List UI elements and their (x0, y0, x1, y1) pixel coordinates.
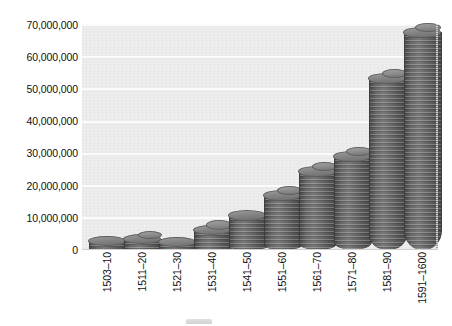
x-axis-tick-label: 1521–30 (172, 252, 183, 292)
bar-top-cap (158, 237, 196, 247)
y-axis-tick-label: 0 (0, 245, 78, 256)
plot-area (82, 24, 437, 250)
legend (186, 318, 296, 326)
bar[interactable] (404, 32, 440, 250)
x-axis-line (82, 249, 438, 250)
legend-swatch (186, 319, 212, 324)
x-axis-tick-label: 1571–80 (347, 252, 358, 292)
bar-chart: 70,000,000 60,000,000 50,000,000 40,000,… (0, 0, 452, 326)
x-axis-tick-label: 1581–90 (382, 252, 393, 292)
bar[interactable] (334, 156, 370, 250)
bar-body (299, 171, 337, 250)
bar[interactable] (369, 78, 405, 250)
y-axis-tick-label: 30,000,000 (0, 148, 78, 159)
bar-body (264, 195, 302, 250)
bar[interactable] (194, 230, 230, 250)
x-axis-tick-label: 1531–40 (207, 252, 218, 292)
x-axis-tick-label: 1561–70 (312, 252, 323, 292)
y-axis: 70,000,000 60,000,000 50,000,000 40,000,… (0, 0, 78, 260)
x-axis: 1503–10 1511–20 1521–30 1531–40 1541–50 … (82, 252, 437, 326)
x-axis-tick-label: 1551–60 (277, 252, 288, 292)
gridline (82, 56, 437, 58)
bar-body (404, 32, 442, 250)
y-axis-tick-label: 40,000,000 (0, 116, 78, 127)
y-axis-tick-label: 60,000,000 (0, 52, 78, 63)
bar[interactable] (299, 171, 335, 250)
gridline (82, 24, 437, 26)
y-axis-tick-label: 50,000,000 (0, 84, 78, 95)
x-axis-tick-label: 1591–1600 (417, 252, 428, 304)
y-axis-tick-label: 10,000,000 (0, 213, 78, 224)
bar-notch (415, 23, 441, 32)
bar-top-cap (88, 236, 126, 246)
bar-body (369, 78, 407, 250)
x-axis-tick-label: 1511–20 (137, 252, 148, 291)
bar-top-cap (228, 210, 266, 221)
bar-body (334, 156, 372, 250)
bar-notch (138, 231, 162, 239)
x-axis-tick-label: 1503–10 (102, 252, 113, 292)
bar[interactable] (229, 215, 265, 250)
y-axis-tick-label: 70,000,000 (0, 20, 78, 31)
x-axis-tick-label: 1541–50 (242, 252, 253, 292)
bar[interactable] (264, 195, 300, 250)
y-axis-tick-label: 20,000,000 (0, 181, 78, 192)
